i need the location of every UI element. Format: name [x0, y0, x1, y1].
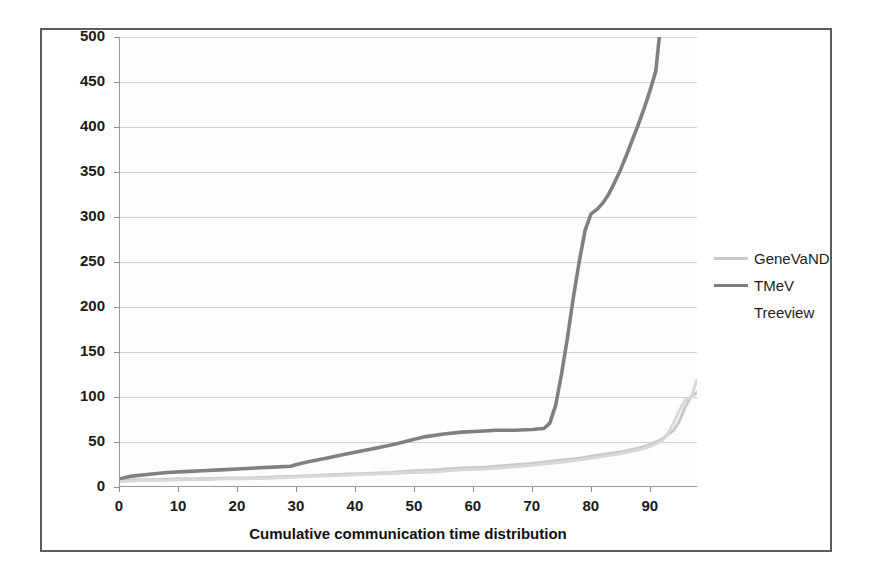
y-tick-label: 350	[42, 162, 105, 179]
x-tick-label: 90	[625, 497, 675, 514]
y-tick-label: 400	[42, 117, 105, 134]
y-tick-label: 100	[42, 387, 105, 404]
legend-item-treeview[interactable]: Treeview	[714, 299, 834, 326]
x-tick-label: 70	[507, 497, 557, 514]
x-tick-label: 10	[153, 497, 203, 514]
legend-swatch-icon	[714, 311, 748, 314]
chart-figure: Communication time (ms) 0501001502002503…	[0, 0, 871, 579]
x-tick-mark	[237, 487, 238, 492]
y-tick-label: 500	[42, 27, 105, 44]
x-tick-mark	[355, 487, 356, 492]
y-tick-label: 450	[42, 72, 105, 89]
x-tick-label: 30	[271, 497, 321, 514]
x-tick-mark	[414, 487, 415, 492]
chart-canvas: Communication time (ms) 0501001502002503…	[42, 30, 830, 550]
series-line-tmev	[120, 37, 659, 479]
y-tick-label: 50	[42, 432, 105, 449]
x-axis-label: Cumulative communication time distributi…	[119, 525, 697, 542]
legend-label: GeneVaND	[754, 250, 830, 267]
x-tick-mark	[591, 487, 592, 492]
chart-legend: GeneVaNDTMeVTreeview	[714, 245, 834, 326]
legend-swatch-icon	[714, 257, 748, 260]
x-tick-label: 40	[330, 497, 380, 514]
series-line-genevand	[120, 393, 697, 481]
legend-item-tmev[interactable]: TMeV	[714, 272, 834, 299]
legend-label: Treeview	[754, 304, 814, 321]
x-tick-label: 60	[448, 497, 498, 514]
legend-item-genevand[interactable]: GeneVaND	[714, 245, 834, 272]
legend-swatch-icon	[714, 284, 748, 287]
figure-frame: Communication time (ms) 0501001502002503…	[40, 28, 832, 552]
series-layer	[120, 37, 697, 486]
y-tick-label: 250	[42, 252, 105, 269]
x-tick-mark	[119, 487, 120, 492]
y-tick-label: 200	[42, 297, 105, 314]
legend-label: TMeV	[754, 277, 794, 294]
x-tick-label: 80	[566, 497, 616, 514]
x-tick-label: 20	[212, 497, 262, 514]
x-tick-label: 50	[389, 497, 439, 514]
y-tick-label: 0	[42, 477, 105, 494]
x-tick-mark	[296, 487, 297, 492]
x-tick-mark	[650, 487, 651, 492]
y-tick-label: 300	[42, 207, 105, 224]
plot-area	[119, 37, 697, 487]
x-tick-label: 0	[94, 497, 144, 514]
series-line-treeview	[120, 380, 697, 481]
x-tick-mark	[532, 487, 533, 492]
y-tick-label: 150	[42, 342, 105, 359]
x-tick-mark	[178, 487, 179, 492]
x-tick-mark	[473, 487, 474, 492]
